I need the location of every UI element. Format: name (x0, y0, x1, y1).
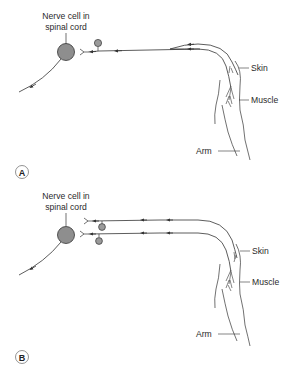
synapse-terminal-icon (80, 49, 88, 55)
skin-label: Skin (251, 63, 268, 73)
ganglion-cell-icon (94, 39, 101, 46)
spinal-nerve-cell-icon (58, 44, 75, 61)
nerve-cell-label-line1: Nerve cell in (42, 191, 90, 201)
skin-fibre (92, 220, 237, 258)
synapse-terminal-icon (80, 231, 88, 237)
panel-a: Nerve cell in spinal cord Skin (16, 11, 279, 179)
muscle-branch (170, 49, 231, 88)
nerve-cell-label-line2: spinal cord (45, 22, 87, 32)
arm-outline-right (236, 244, 250, 346)
nerve-cell-label-line1: Nerve cell in (42, 11, 90, 21)
panel-letter-b: B (19, 353, 26, 363)
panel-b: Nerve cell in spinal cord Skin (16, 191, 280, 364)
nerve-cell-label-line2: spinal cord (45, 202, 87, 212)
spinal-nerve-cell-icon (58, 227, 75, 244)
arm-outline-right (235, 61, 250, 160)
muscle-endings-icon (226, 86, 234, 107)
arm-label: Arm (196, 146, 212, 156)
ganglion-cell-icon (99, 224, 106, 231)
synapse-terminal-icon (84, 218, 92, 224)
muscle-label: Muscle (252, 277, 279, 287)
skin-label: Skin (252, 246, 269, 256)
arm-outline-left (215, 80, 237, 156)
muscle-fibre (88, 233, 231, 272)
motor-fibre (19, 242, 61, 275)
ganglion-cell-icon (96, 238, 103, 245)
arm-outline-left (215, 264, 237, 341)
sensory-fibre (88, 49, 200, 52)
muscle-endings-icon (226, 270, 234, 291)
arm-label: Arm (196, 329, 212, 339)
panel-letter-a: A (19, 168, 26, 178)
reflex-diagram: Nerve cell in spinal cord Skin (0, 0, 289, 370)
motor-fibre (19, 59, 61, 92)
muscle-label: Muscle (251, 95, 278, 105)
